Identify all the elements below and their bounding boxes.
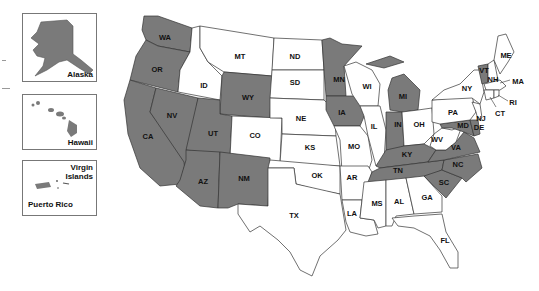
- label-ma: MA: [512, 77, 524, 86]
- label-mn: MN: [333, 75, 345, 84]
- label-ut: UT: [208, 129, 218, 138]
- state-in: [386, 112, 404, 152]
- label-ia: IA: [338, 108, 346, 117]
- label-vt: VT: [479, 66, 489, 75]
- label-az: AZ: [198, 177, 208, 186]
- label-de: DE: [474, 123, 484, 132]
- label-ca: CA: [143, 132, 154, 141]
- label-in: IN: [394, 120, 402, 129]
- label-me: ME: [500, 51, 511, 60]
- label-mt: MT: [235, 52, 246, 61]
- label-tn: TN: [393, 166, 403, 175]
- label-nj: NJ: [476, 114, 486, 123]
- label-id: ID: [200, 81, 208, 90]
- label-il: IL: [371, 122, 378, 131]
- label-nc: NC: [453, 160, 464, 169]
- label-ct: CT: [495, 109, 505, 118]
- label-ky: KY: [402, 150, 412, 159]
- label-wi: WI: [362, 82, 371, 91]
- label-ok: OK: [311, 171, 323, 180]
- label-ne: NE: [296, 114, 306, 123]
- label-or: OR: [151, 65, 163, 74]
- label-mi: MI: [399, 92, 407, 101]
- label-wa: WA: [159, 33, 172, 42]
- label-fl: FL: [440, 236, 450, 245]
- label-tx: TX: [289, 211, 299, 220]
- label-nv: NV: [167, 111, 177, 120]
- label-mo: MO: [348, 142, 360, 151]
- state-ny: [432, 70, 484, 104]
- state-ri: [494, 90, 499, 98]
- label-va: VA: [451, 143, 461, 152]
- label-pa: PA: [448, 108, 458, 117]
- label-ar: AR: [347, 173, 358, 182]
- label-co: CO: [249, 131, 260, 140]
- label-la: LA: [347, 209, 358, 218]
- label-md: MD: [457, 121, 469, 130]
- label-wv: WV: [431, 135, 443, 144]
- label-nd: ND: [290, 52, 301, 61]
- label-nh: NH: [488, 75, 499, 84]
- state-ct: [484, 90, 494, 100]
- label-ks: KS: [305, 143, 315, 152]
- us-map: WA OR CA NV ID MT WY UT CO AZ NM ND SD N…: [0, 0, 539, 291]
- label-wy: WY: [242, 93, 254, 102]
- label-nm: NM: [238, 174, 250, 183]
- label-al: AL: [394, 197, 404, 206]
- label-ny: NY: [462, 84, 472, 93]
- label-sc: SC: [439, 178, 450, 187]
- label-ga: GA: [421, 193, 433, 202]
- label-oh: OH: [413, 120, 424, 129]
- label-ri: RI: [509, 98, 517, 107]
- label-sd: SD: [290, 78, 301, 87]
- label-ms: MS: [371, 199, 382, 208]
